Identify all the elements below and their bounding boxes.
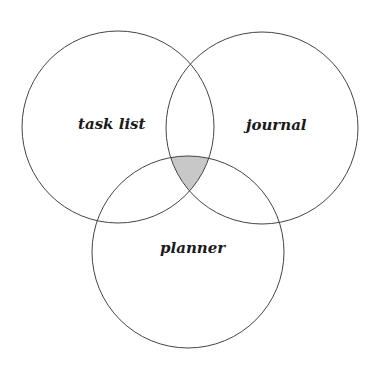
venn-diagram: task list journal planner xyxy=(0,0,377,374)
label-journal: journal xyxy=(243,116,307,134)
label-task-list: task list xyxy=(78,115,146,133)
label-planner: planner xyxy=(160,239,226,257)
